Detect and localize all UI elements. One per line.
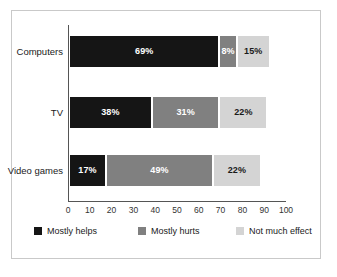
x-tick-label: 30 <box>129 205 138 215</box>
category-label: Video games <box>0 154 63 187</box>
bar-segment: 17% <box>69 154 106 187</box>
x-tick-label: 40 <box>150 205 159 215</box>
legend-item[interactable]: Not much effect <box>236 226 302 236</box>
legend-label: Not much effect <box>249 226 312 236</box>
chart-figure: Computers69%8%15%TV38%31%22%Video games1… <box>11 10 321 259</box>
x-tick-label: 100 <box>279 205 293 215</box>
plot-area: Computers69%8%15%TV38%31%22%Video games1… <box>68 25 286 201</box>
x-tick-label: 50 <box>172 205 181 215</box>
bar-segment: 69% <box>69 35 219 68</box>
category-label: TV <box>0 96 63 129</box>
bar-segment: 49% <box>106 154 213 187</box>
x-tick-label: 0 <box>66 205 71 215</box>
bar-segment: 31% <box>152 96 220 129</box>
bar-segment: 22% <box>219 96 267 129</box>
x-axis-line <box>68 201 286 202</box>
x-tick-label: 60 <box>194 205 203 215</box>
legend-swatch-icon <box>236 227 244 235</box>
x-tick-label: 80 <box>238 205 247 215</box>
x-tick-label: 90 <box>259 205 268 215</box>
x-tick-label: 70 <box>216 205 225 215</box>
bar-segment: 8% <box>219 35 236 68</box>
legend-label: Mostly helps <box>47 226 97 236</box>
legend-swatch-icon <box>138 227 146 235</box>
legend-item[interactable]: Mostly hurts <box>138 226 236 236</box>
bar-segment: 38% <box>69 96 152 129</box>
x-tick-label: 20 <box>107 205 116 215</box>
legend-item[interactable]: Mostly helps <box>34 226 138 236</box>
legend-label: Mostly hurts <box>151 226 200 236</box>
x-tick-label: 10 <box>85 205 94 215</box>
bar-segment: 22% <box>213 154 261 187</box>
category-label: Computers <box>0 35 63 68</box>
legend-swatch-icon <box>34 227 42 235</box>
bar-segment: 15% <box>237 35 270 68</box>
chart-legend: Mostly helpsMostly hurtsNot much effect <box>34 226 302 236</box>
